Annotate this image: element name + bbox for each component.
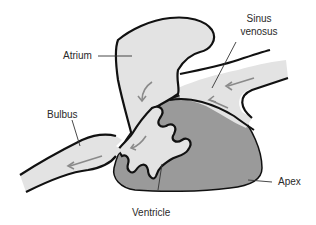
label-atrium: Atrium xyxy=(63,50,92,61)
label-ventricle: Ventricle xyxy=(132,207,170,218)
label-apex: Apex xyxy=(278,176,301,187)
label-sinus-venosus-line2: venosus xyxy=(234,26,284,37)
embryonic-heart-diagram: Atrium Sinus venosus Bulbus Ventricle Ap… xyxy=(0,0,316,225)
label-sinus-venosus-line1: Sinus xyxy=(234,13,284,24)
label-bulbus: Bulbus xyxy=(47,109,78,120)
